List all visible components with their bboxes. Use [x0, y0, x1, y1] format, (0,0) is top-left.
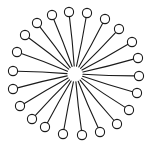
- head-circle: [40, 122, 49, 131]
- tail-line: [35, 80, 69, 116]
- head-circle: [15, 101, 24, 110]
- head-circle: [64, 7, 73, 16]
- tail-line: [69, 17, 74, 66]
- head-circle: [114, 24, 123, 33]
- tail-line: [18, 71, 67, 73]
- tail-line: [24, 78, 68, 104]
- head-circle: [8, 84, 17, 93]
- head-circle: [77, 130, 86, 139]
- tail-line: [80, 80, 114, 120]
- head-circle: [124, 105, 133, 114]
- head-circle: [32, 18, 41, 27]
- tail-line: [81, 32, 116, 68]
- head-circle: [20, 30, 29, 39]
- head-circle: [82, 8, 91, 17]
- tail-line: [64, 82, 74, 130]
- head-circle: [47, 10, 56, 19]
- head-circle: [112, 119, 121, 128]
- tail-line: [76, 82, 82, 130]
- hydrophilic-heads: [8, 7, 143, 139]
- head-circle: [27, 114, 36, 123]
- head-circle: [134, 71, 143, 80]
- head-circle: [132, 88, 141, 97]
- head-circle: [95, 127, 104, 136]
- tail-line: [83, 74, 134, 76]
- micelle-diagram: [0, 0, 152, 146]
- head-circle: [100, 14, 109, 23]
- head-circle: [58, 129, 67, 138]
- head-circle: [127, 37, 136, 46]
- tail-line: [77, 18, 87, 67]
- tail-line: [18, 76, 68, 88]
- head-circle: [12, 47, 21, 56]
- head-circle: [133, 53, 142, 62]
- head-circle: [8, 66, 17, 75]
